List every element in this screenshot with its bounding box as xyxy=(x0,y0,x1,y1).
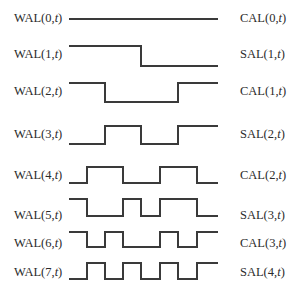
label-wal-4: WAL(4,t) xyxy=(14,168,62,182)
label-var: t xyxy=(277,127,280,141)
label-text: WAL(5, xyxy=(14,208,55,222)
label-cal-1: CAL(1,t) xyxy=(240,84,286,98)
waveform-wal-1 xyxy=(69,46,218,66)
label-sal-3: SAL(3,t) xyxy=(240,208,285,222)
waveform-wal-7 xyxy=(69,263,218,279)
label-var: t xyxy=(55,11,58,25)
label-cal-2: CAL(2,t) xyxy=(240,168,286,182)
label-var: t xyxy=(55,84,58,98)
label-var: t xyxy=(55,236,58,250)
label-wal-6: WAL(6,t) xyxy=(14,236,62,250)
label-text: SAL(2, xyxy=(240,127,277,141)
label-var: t xyxy=(55,208,58,222)
walsh-functions-diagram: WAL(0,t) WAL(1,t) WAL(2,t) WAL(3,t) WAL(… xyxy=(0,0,291,288)
waveform-wal-4 xyxy=(69,167,218,183)
label-wal-1: WAL(1,t) xyxy=(14,47,62,61)
label-text: WAL(4, xyxy=(14,168,55,182)
label-var: t xyxy=(279,168,282,182)
label-text: WAL(2, xyxy=(14,84,55,98)
label-var: t xyxy=(55,127,58,141)
label-var: t xyxy=(55,265,58,279)
label-text: SAL(1, xyxy=(240,47,277,61)
label-text: WAL(3, xyxy=(14,127,55,141)
label-var: t xyxy=(277,47,280,61)
label-var: t xyxy=(55,168,58,182)
waveform-wal-5 xyxy=(69,199,218,216)
label-text: WAL(0, xyxy=(14,11,55,25)
label-wal-7: WAL(7,t) xyxy=(14,265,62,279)
label-wal-3: WAL(3,t) xyxy=(14,127,62,141)
label-text: WAL(6, xyxy=(14,236,55,250)
label-text: WAL(1, xyxy=(14,47,55,61)
label-var: t xyxy=(277,265,280,279)
label-sal-4: SAL(4,t) xyxy=(240,265,285,279)
label-text: SAL(4, xyxy=(240,265,277,279)
label-sal-1: SAL(1,t) xyxy=(240,47,285,61)
label-wal-2: WAL(2,t) xyxy=(14,84,62,98)
label-var: t xyxy=(279,84,282,98)
waveform-wal-3 xyxy=(69,126,218,144)
label-cal-3: CAL(3,t) xyxy=(240,236,286,250)
label-text: WAL(7, xyxy=(14,265,55,279)
label-cal-0: CAL(0,t) xyxy=(240,11,286,25)
waveform-wal-6 xyxy=(69,232,218,247)
waveform-wal-2 xyxy=(69,83,218,102)
label-var: t xyxy=(279,11,282,25)
label-wal-5: WAL(5,t) xyxy=(14,208,62,222)
label-var: t xyxy=(279,236,282,250)
label-wal-0: WAL(0,t) xyxy=(14,11,62,25)
label-var: t xyxy=(55,47,58,61)
label-text: CAL(0, xyxy=(240,11,279,25)
label-text: CAL(1, xyxy=(240,84,279,98)
label-text: CAL(3, xyxy=(240,236,279,250)
label-sal-2: SAL(2,t) xyxy=(240,127,285,141)
label-var: t xyxy=(277,208,280,222)
label-text: CAL(2, xyxy=(240,168,279,182)
label-text: SAL(3, xyxy=(240,208,277,222)
